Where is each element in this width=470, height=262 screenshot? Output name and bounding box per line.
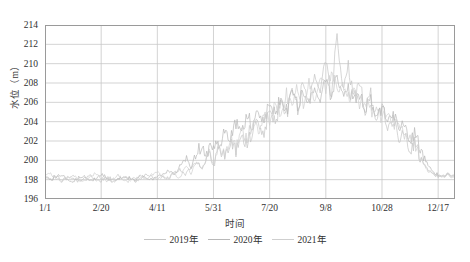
legend-line-icon — [144, 239, 166, 240]
legend-line-icon — [272, 239, 294, 240]
x-tick-label: 12/17 — [408, 203, 468, 213]
water-level-chart-figure: 水位（m） 196198200202204206208210212214 1/1… — [0, 0, 470, 262]
y-tick-label: 212 — [12, 39, 38, 49]
x-tick-label: 10/28 — [352, 203, 412, 213]
y-tick-label: 200 — [12, 155, 38, 165]
x-tick-label: 4/11 — [127, 203, 187, 213]
x-axis-tick-labels: 1/12/204/115/317/209/810/2812/17 — [0, 203, 470, 217]
chart-legend: 2019年2020年2021年 — [0, 232, 470, 246]
y-tick-label: 210 — [12, 59, 38, 69]
x-tick-label: 5/31 — [183, 203, 243, 213]
plot-svg — [45, 25, 455, 199]
x-tick-label: 1/1 — [15, 203, 75, 213]
y-tick-label: 206 — [12, 97, 38, 107]
plot-area — [45, 25, 455, 199]
y-tick-label: 214 — [12, 20, 38, 30]
legend-line-icon — [208, 239, 230, 240]
y-tick-label: 208 — [12, 78, 38, 88]
legend-label: 2019年 — [170, 232, 199, 246]
y-tick-label: 204 — [12, 117, 38, 127]
x-tick-label: 2/20 — [71, 203, 131, 213]
legend-label: 2021年 — [298, 232, 327, 246]
legend-entry[interactable]: 2019年 — [144, 232, 199, 246]
x-tick-label: 9/8 — [296, 203, 356, 213]
y-tick-label: 202 — [12, 136, 38, 146]
x-axis-title: 时间 — [0, 216, 470, 230]
legend-label: 2020年 — [234, 232, 263, 246]
series-line-2021年 — [45, 72, 455, 183]
y-tick-label: 198 — [12, 175, 38, 185]
x-tick-label: 7/20 — [240, 203, 300, 213]
legend-entry[interactable]: 2021年 — [272, 232, 327, 246]
legend-entry[interactable]: 2020年 — [208, 232, 263, 246]
